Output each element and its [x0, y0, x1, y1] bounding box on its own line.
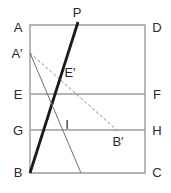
label-C: C	[152, 166, 161, 179]
geometry-figure: ADA′EFGHBCPE′IB′	[0, 0, 171, 193]
crease-line-BP	[30, 22, 78, 173]
label-A: A	[14, 21, 23, 34]
figure-canvas	[0, 0, 171, 193]
rectangle-ABCD	[30, 25, 145, 173]
label-E: E	[14, 88, 23, 101]
label-A-prime: A′	[11, 47, 22, 60]
label-H: H	[152, 124, 161, 137]
label-B-prime: B′	[112, 135, 123, 148]
segment-group	[30, 22, 145, 173]
rectangle-outline	[30, 25, 145, 173]
label-F: F	[153, 88, 161, 101]
label-B: B	[14, 166, 23, 179]
label-G: G	[13, 124, 23, 137]
label-E-prime: E′	[64, 66, 75, 79]
label-D: D	[152, 21, 161, 34]
label-I: I	[65, 118, 69, 131]
label-P: P	[73, 6, 82, 19]
